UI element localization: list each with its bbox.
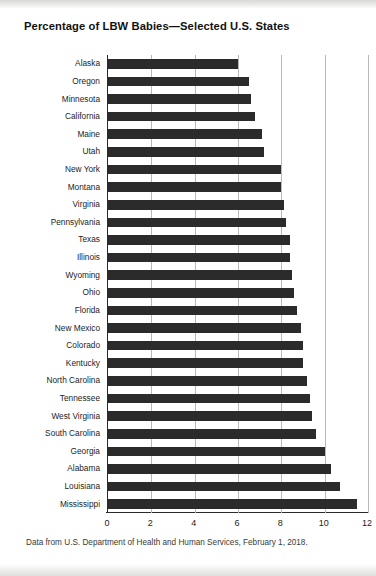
x-tick-label: 10 bbox=[319, 518, 329, 528]
category-label: California bbox=[0, 111, 104, 121]
bar bbox=[108, 218, 286, 228]
gridline bbox=[281, 55, 282, 513]
category-label: Maine bbox=[0, 129, 104, 139]
bar bbox=[108, 77, 249, 87]
category-label: Oregon bbox=[0, 76, 104, 86]
x-tick-label: 8 bbox=[278, 518, 283, 528]
category-label: Virginia bbox=[0, 199, 104, 209]
gridline bbox=[195, 55, 196, 513]
bar bbox=[108, 200, 284, 210]
category-label: Minnesota bbox=[0, 94, 104, 104]
gridline bbox=[238, 55, 239, 513]
category-label: Utah bbox=[0, 146, 104, 156]
bar bbox=[108, 323, 301, 333]
bar bbox=[108, 112, 255, 122]
bar bbox=[108, 94, 251, 104]
gridline bbox=[368, 55, 369, 513]
x-tick-label: 2 bbox=[148, 518, 153, 528]
category-label: North Carolina bbox=[0, 375, 104, 385]
gridline bbox=[151, 55, 152, 513]
gridline bbox=[325, 55, 326, 513]
category-label: New York bbox=[0, 164, 104, 174]
category-label: Illinois bbox=[0, 252, 104, 262]
x-tick-label: 4 bbox=[191, 518, 196, 528]
bar bbox=[108, 165, 281, 175]
bar-chart-figure: Percentage of LBW Babies—Selected U.S. S… bbox=[0, 0, 376, 576]
bar bbox=[108, 411, 312, 421]
bar bbox=[108, 306, 297, 316]
bar bbox=[108, 288, 294, 298]
bar bbox=[108, 182, 281, 192]
chart-caption: Data from U.S. Department of Health and … bbox=[26, 538, 308, 547]
bar bbox=[108, 235, 290, 245]
category-label: Texas bbox=[0, 234, 104, 244]
bar bbox=[108, 376, 307, 386]
bar bbox=[108, 147, 264, 157]
category-label: Florida bbox=[0, 305, 104, 315]
bar bbox=[108, 253, 290, 263]
bar bbox=[108, 482, 340, 492]
category-label: Tennessee bbox=[0, 393, 104, 403]
x-tick-label: 6 bbox=[234, 518, 239, 528]
scan-edge-bottom bbox=[0, 564, 376, 576]
category-label: West Virginia bbox=[0, 411, 104, 421]
x-tick-label: 0 bbox=[104, 518, 109, 528]
category-label: South Carolina bbox=[0, 428, 104, 438]
category-label: Ohio bbox=[0, 287, 104, 297]
chart-title: Percentage of LBW Babies—Selected U.S. S… bbox=[24, 20, 290, 32]
bar bbox=[108, 270, 292, 280]
category-label: New Mexico bbox=[0, 323, 104, 333]
bar bbox=[108, 129, 262, 139]
category-label: Georgia bbox=[0, 446, 104, 456]
bar bbox=[108, 358, 303, 368]
bar bbox=[108, 499, 357, 509]
category-label: Pennsylvania bbox=[0, 217, 104, 227]
bar bbox=[108, 464, 331, 474]
category-label: Kentucky bbox=[0, 358, 104, 368]
category-label: Alabama bbox=[0, 463, 104, 473]
category-label: Wyoming bbox=[0, 270, 104, 280]
category-label: Alaska bbox=[0, 58, 104, 68]
bar bbox=[108, 447, 325, 457]
bar bbox=[108, 341, 303, 351]
bar bbox=[108, 59, 238, 69]
category-label: Montana bbox=[0, 182, 104, 192]
plot-area bbox=[107, 55, 368, 513]
x-tick-label: 12 bbox=[362, 518, 372, 528]
bar bbox=[108, 394, 310, 404]
bar bbox=[108, 429, 316, 439]
category-label: Louisiana bbox=[0, 481, 104, 491]
category-label: Colorado bbox=[0, 340, 104, 350]
category-label: Mississippi bbox=[0, 499, 104, 509]
